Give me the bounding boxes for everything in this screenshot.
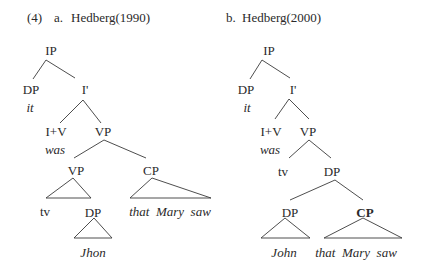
tree-a-vp-triangle xyxy=(46,178,91,198)
tree-b-edge xyxy=(309,140,331,158)
tree-b-edge xyxy=(289,140,309,158)
tree-b-iv-node: I+V xyxy=(260,124,282,139)
tree-a-ip-node: IP xyxy=(45,43,57,58)
tree-a: IP DP it I' I+V was VP VP CP tv DP that … xyxy=(23,43,211,260)
example-number: (4) xyxy=(27,10,42,25)
tree-b-dp-subject-node: DP xyxy=(238,82,255,97)
tree-b-cp-node: CP xyxy=(356,205,373,220)
tree-a-dp-subject-node: DP xyxy=(23,82,40,97)
example-b-title: Hedberg(2000) xyxy=(242,10,321,25)
tree-b-dp-top-node: DP xyxy=(324,164,341,179)
tree-b-edge xyxy=(250,60,262,79)
tree-a-dp-object-node: DP xyxy=(85,205,102,220)
example-a-title: Hedberg(1990) xyxy=(71,10,150,25)
tree-a-trace: tv xyxy=(40,204,51,219)
syntax-tree-figure: (4) a. Hedberg(1990) b. Hedberg(2000) IP… xyxy=(0,0,423,272)
tree-b-dp-triangle xyxy=(261,218,310,238)
tree-b-vp-node: VP xyxy=(300,124,317,139)
tree-b-subject-word: it xyxy=(243,100,251,115)
tree-b-cp-words: that Mary saw xyxy=(315,245,397,260)
tree-a-edge xyxy=(104,140,146,158)
tree-a-cp-words: that Mary saw xyxy=(129,204,211,219)
tree-b-verb-word: was xyxy=(260,142,280,157)
tree-a-iv-node: I+V xyxy=(45,124,67,139)
tree-a-edge xyxy=(83,100,101,123)
tree-a-cp-triangle xyxy=(130,178,211,198)
tree-b-ibar-node: I' xyxy=(290,82,297,97)
tree-b-ip-node: IP xyxy=(263,43,275,58)
tree-b: IP DP it I' I+V was VP tv DP DP CP John … xyxy=(238,43,402,260)
tree-a-object-word: Jhon xyxy=(80,245,105,260)
example-b-letter: b. xyxy=(226,10,236,25)
tree-a-edge xyxy=(46,60,75,78)
tree-b-dp-inner-node: DP xyxy=(282,205,299,220)
tree-b-edge xyxy=(275,99,289,119)
tree-a-subject-word: it xyxy=(26,100,34,115)
tree-b-edge xyxy=(262,60,290,78)
tree-b-edge xyxy=(335,180,363,200)
tree-b-edge xyxy=(289,99,309,119)
tree-a-ibar-node: I' xyxy=(82,82,89,97)
tree-a-edge xyxy=(60,100,83,123)
tree-a-edge xyxy=(74,140,104,158)
tree-a-verb-word: was xyxy=(45,142,65,157)
tree-a-edge xyxy=(33,60,46,79)
tree-b-edge xyxy=(290,180,335,200)
tree-b-dp-words: John xyxy=(271,245,296,260)
tree-a-vp-top-node: VP xyxy=(95,124,112,139)
example-a-letter: a. xyxy=(54,10,63,25)
tree-a-cp-node: CP xyxy=(143,163,159,178)
tree-a-vp-inner-node: VP xyxy=(68,163,85,178)
tree-a-dp-triangle xyxy=(74,218,112,238)
tree-b-trace: tv xyxy=(278,164,289,179)
tree-b-cp-triangle xyxy=(324,218,402,238)
